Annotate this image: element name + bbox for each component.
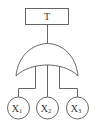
top-event: T [26, 9, 69, 25]
basic-event-x3: X3 [67, 97, 89, 119]
event-subscript: 2 [48, 107, 51, 114]
fault-tree-diagram: T X1 X2 X3 [0, 0, 96, 127]
or-gate-icon [16, 44, 78, 77]
basic-event-x1: X1 [8, 97, 30, 119]
top-event-label: T [44, 11, 50, 22]
event-subscript: 1 [19, 107, 22, 114]
basic-event-x2: X2 [37, 97, 59, 119]
connector-x3 [60, 67, 78, 98]
connector-x1 [19, 67, 36, 98]
event-subscript: 3 [78, 107, 81, 114]
